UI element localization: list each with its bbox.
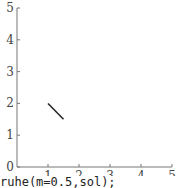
- x-tick-label: 5: [168, 169, 176, 176]
- data-line: [48, 103, 64, 119]
- x-tick-label: 4: [137, 169, 145, 176]
- y-tick-label: 2: [6, 96, 14, 110]
- y-tick-label: 0: [6, 160, 14, 174]
- chart-plot: 12345012345: [0, 0, 181, 176]
- y-tick-label: 3: [6, 65, 14, 79]
- y-tick-label: 4: [6, 33, 14, 47]
- chart-series: [48, 103, 64, 119]
- y-tick-label: 1: [6, 128, 14, 142]
- command-caption: ruhe(m=0.5,sol);: [0, 176, 116, 188]
- y-tick-label: 5: [6, 1, 14, 15]
- chart-axes: 12345012345: [6, 1, 175, 176]
